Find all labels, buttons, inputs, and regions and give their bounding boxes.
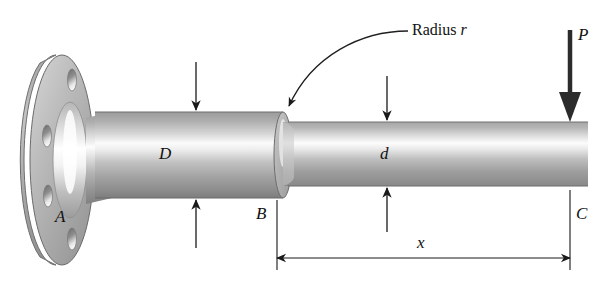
- radius-leader-line: [289, 31, 408, 106]
- shaft-drawing: [0, 0, 605, 287]
- label-radius-word: Radius: [412, 21, 456, 38]
- label-point-b: B: [256, 205, 266, 222]
- large-shaft-body: [95, 112, 283, 198]
- small-shaft-body: [283, 122, 588, 186]
- small-diameter-shaft: [283, 122, 588, 186]
- label-distance-x: x: [417, 234, 425, 251]
- large-diameter-shaft: [95, 112, 292, 198]
- stepped-shaft-figure: A B C D d P x Radius r: [0, 0, 605, 287]
- label-large-diameter: D: [159, 145, 171, 162]
- flange-bolt-hole: [43, 125, 52, 147]
- fillet-blend: [283, 122, 294, 186]
- flange-bolt-hole: [44, 185, 53, 207]
- radius-callout-leader: [289, 31, 408, 106]
- label-radius-callout: Radius r: [412, 22, 467, 38]
- flange-bolt-hole: [68, 228, 77, 250]
- label-point-c: C: [576, 205, 587, 222]
- label-radius-symbol: r: [460, 21, 466, 38]
- label-small-diameter: d: [380, 145, 389, 162]
- label-point-a: A: [55, 208, 65, 225]
- load-arrow-head: [559, 92, 581, 122]
- flange-assembly: [20, 55, 94, 265]
- flange-highlight: [63, 110, 77, 194]
- label-load-p: P: [578, 26, 588, 43]
- flange-bolt-hole: [68, 69, 77, 91]
